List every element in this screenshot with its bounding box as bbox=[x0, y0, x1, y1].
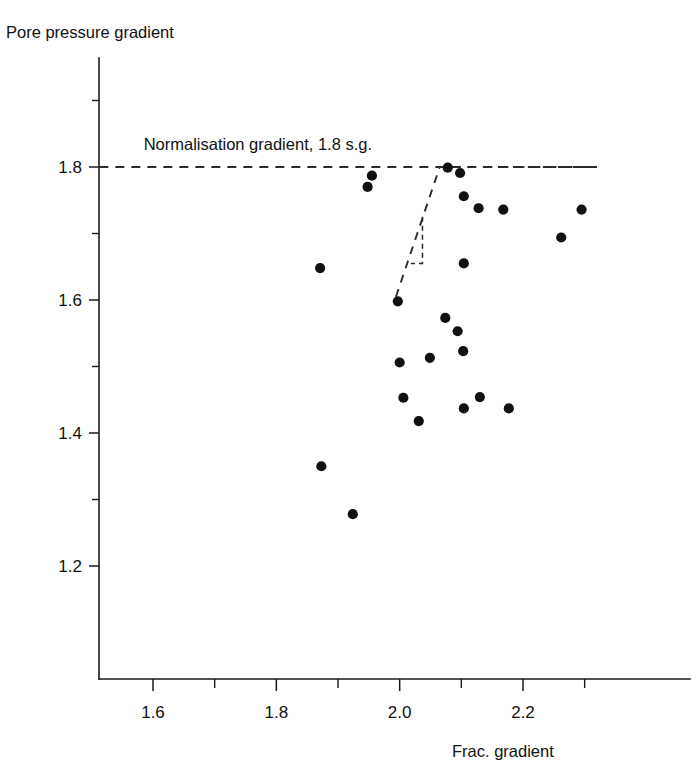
data-point-14 bbox=[458, 346, 468, 356]
data-point-20 bbox=[498, 204, 508, 214]
y-axis-title: Pore pressure gradient bbox=[6, 23, 174, 41]
data-point-6 bbox=[395, 357, 405, 367]
y-tick-label-1.2: 1.2 bbox=[58, 557, 82, 576]
data-point-15 bbox=[459, 403, 469, 413]
normalisation-gradient-label: Normalisation gradient, 1.8 s.g. bbox=[144, 135, 372, 153]
data-point-3 bbox=[363, 182, 373, 192]
scatter-plot-svg: Pore pressure gradient 1.81.61.41.2 1.61… bbox=[0, 0, 696, 774]
data-point-23 bbox=[576, 204, 586, 214]
data-point-1 bbox=[316, 461, 326, 471]
data-point-21 bbox=[504, 403, 514, 413]
x-tick-label-2.2: 2.2 bbox=[511, 703, 535, 722]
x-tick-label-1.6: 1.6 bbox=[141, 703, 165, 722]
chart-figure: Pore pressure gradient 1.81.61.41.2 1.61… bbox=[0, 0, 696, 774]
y-tick-label-1.4: 1.4 bbox=[58, 424, 82, 443]
data-point-16 bbox=[453, 326, 463, 336]
data-point-11 bbox=[455, 168, 465, 178]
data-point-2 bbox=[348, 509, 358, 519]
data-point-8 bbox=[414, 416, 424, 426]
data-point-17 bbox=[443, 163, 453, 173]
data-point-12 bbox=[459, 191, 469, 201]
x-axis-title: Frac. gradient bbox=[452, 742, 554, 760]
data-point-19 bbox=[475, 392, 485, 402]
data-point-0 bbox=[315, 263, 325, 273]
data-point-18 bbox=[474, 203, 484, 213]
y-tick-label-1.8: 1.8 bbox=[58, 158, 82, 177]
data-point-9 bbox=[425, 353, 435, 363]
data-point-13 bbox=[459, 258, 469, 268]
data-point-5 bbox=[393, 296, 403, 306]
data-point-7 bbox=[398, 393, 408, 403]
x-tick-label-1.8: 1.8 bbox=[265, 703, 289, 722]
data-point-22 bbox=[556, 232, 566, 242]
x-tick-label-2.0: 2.0 bbox=[388, 703, 412, 722]
chart-annotations: Normalisation gradient, 1.8 s.g. bbox=[144, 135, 372, 153]
data-point-10 bbox=[440, 313, 450, 323]
plot-background bbox=[0, 0, 696, 774]
y-tick-label-1.6: 1.6 bbox=[58, 291, 82, 310]
data-point-4 bbox=[367, 171, 377, 181]
